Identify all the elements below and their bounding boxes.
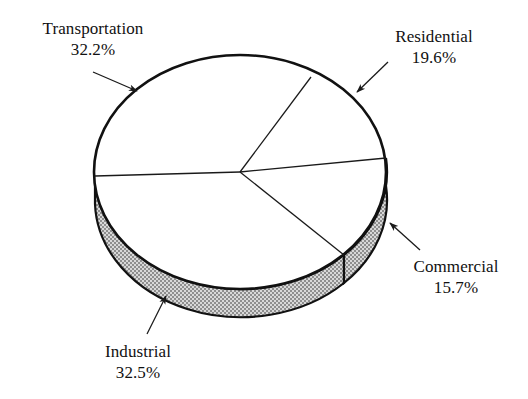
slice-label-industrial-value: 32.5% xyxy=(70,362,206,383)
slice-label-commercial-value: 15.7% xyxy=(390,277,522,298)
slice-label-commercial-name: Commercial xyxy=(390,256,522,277)
slice-label-residential-name: Residential xyxy=(370,26,498,47)
leader-arrow-industrial xyxy=(147,296,166,334)
slice-label-industrial: Industrial 32.5% xyxy=(70,341,206,383)
pie-chart-figure: Transportation 32.2% Residential 19.6% C… xyxy=(0,0,528,399)
leader-arrow-transportation xyxy=(93,72,137,91)
slice-label-industrial-name: Industrial xyxy=(70,341,206,362)
slice-label-residential: Residential 19.6% xyxy=(370,26,498,68)
slice-label-residential-value: 19.6% xyxy=(370,47,498,68)
slice-label-transportation: Transportation 32.2% xyxy=(18,18,168,60)
slice-label-transportation-name: Transportation xyxy=(18,18,168,39)
slice-label-transportation-value: 32.2% xyxy=(18,39,168,60)
slice-label-commercial: Commercial 15.7% xyxy=(390,256,522,298)
leader-arrow-commercial xyxy=(390,223,420,250)
